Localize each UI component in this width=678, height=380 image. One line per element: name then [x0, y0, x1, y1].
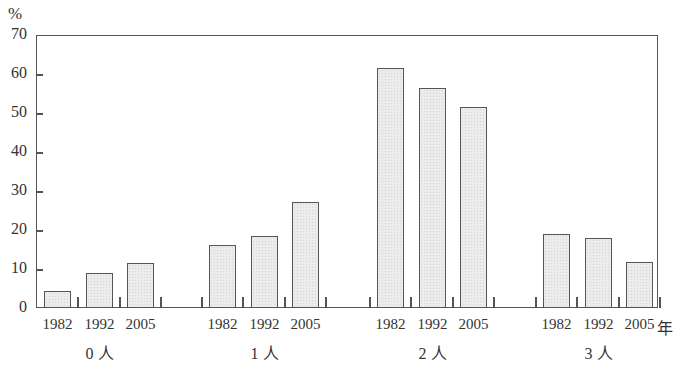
x-tick-mark — [77, 297, 79, 308]
bar — [543, 234, 570, 308]
x-tick-mark — [535, 297, 537, 308]
y-tick-label: 10 — [3, 259, 27, 277]
x-tick-mark — [242, 297, 244, 308]
bar — [460, 107, 487, 308]
x-tick-label-year: 1992 — [245, 316, 285, 333]
bar — [585, 238, 612, 308]
group-label: 2 人 — [403, 340, 463, 364]
x-tick-mark — [369, 297, 371, 308]
x-tick-label-year: 2005 — [620, 316, 660, 333]
x-tick-mark — [576, 297, 578, 308]
y-axis-unit: % — [8, 4, 22, 24]
y-tick-label: 0 — [3, 298, 27, 316]
x-tick-label-year: 2005 — [121, 316, 161, 333]
bar — [251, 236, 278, 308]
x-tick-label-year: 2005 — [286, 316, 326, 333]
x-tick-label-year: 1982 — [371, 316, 411, 333]
y-tick-label: 70 — [3, 25, 27, 43]
x-tick-mark — [452, 297, 454, 308]
x-tick-label-year: 1992 — [80, 316, 120, 333]
x-tick-label-year: 2005 — [454, 316, 494, 333]
x-tick-mark — [410, 297, 412, 308]
x-tick-mark — [618, 297, 620, 308]
y-tick-label: 60 — [3, 64, 27, 82]
bar — [626, 262, 653, 308]
x-tick-label-year: 1982 — [537, 316, 577, 333]
bar — [209, 245, 236, 308]
x-tick-label-year: 1982 — [38, 316, 78, 333]
group-label: 1 人 — [235, 340, 295, 364]
bar — [44, 291, 71, 308]
bar — [419, 88, 446, 308]
x-tick-label-year: 1982 — [203, 316, 243, 333]
x-tick-mark — [325, 297, 327, 308]
x-tick-mark — [493, 297, 495, 308]
bar — [86, 273, 113, 308]
y-tick-label: 20 — [3, 220, 27, 238]
y-tick-label: 30 — [3, 181, 27, 199]
group-label: 0 人 — [70, 340, 130, 364]
x-tick-mark — [659, 297, 661, 308]
x-axis-unit: 年 — [657, 315, 673, 339]
y-tick-label: 50 — [3, 103, 27, 121]
bar — [127, 263, 154, 308]
x-tick-label-year: 1992 — [413, 316, 453, 333]
x-tick-label-year: 1992 — [579, 316, 619, 333]
x-tick-mark — [201, 297, 203, 308]
y-tick-label: 40 — [3, 142, 27, 160]
x-tick-mark — [160, 297, 162, 308]
x-tick-mark — [284, 297, 286, 308]
bar — [292, 202, 319, 308]
group-label: 3 人 — [569, 340, 629, 364]
x-tick-mark — [119, 297, 121, 308]
bar — [377, 68, 404, 308]
